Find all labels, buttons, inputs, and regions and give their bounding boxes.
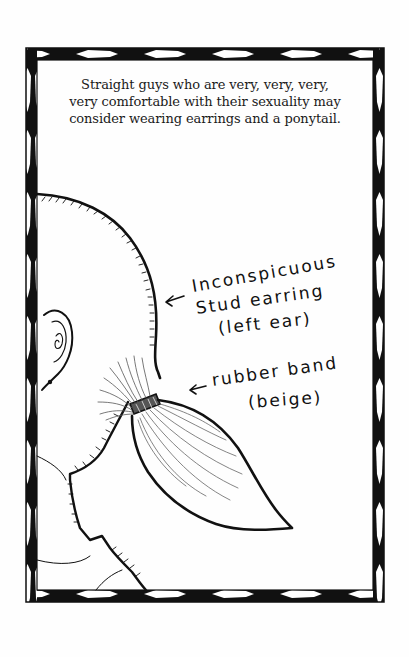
stud-earring — [48, 380, 52, 384]
caption-line-1: Straight guys who are very, very, very, — [44, 76, 366, 93]
ponytail — [132, 400, 292, 530]
caption-line-2: very comfortable with their sexuality ma… — [44, 93, 366, 110]
caption: Straight guys who are very, very, very, … — [44, 76, 366, 127]
illustration-page: Straight guys who are very, very, very, … — [0, 0, 409, 657]
ear — [42, 311, 72, 390]
head-outline — [37, 194, 160, 590]
caption-line-3: consider wearing earrings and a ponytail… — [44, 110, 366, 127]
